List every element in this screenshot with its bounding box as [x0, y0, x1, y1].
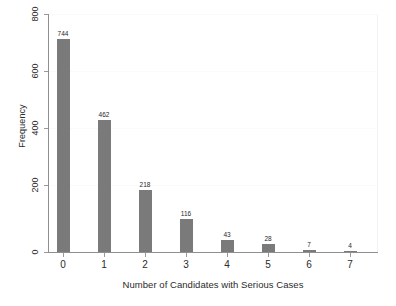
bar-value-7: 4	[330, 242, 370, 249]
bar-value-2: 218	[125, 181, 165, 188]
gridline-800	[49, 14, 378, 15]
y-tick-text-0: 0	[30, 249, 40, 254]
x-tick-mark-7	[350, 253, 351, 257]
y-tick-label-600: 600	[24, 65, 46, 77]
x-tick-label-2: 2	[133, 259, 157, 270]
x-tick-mark-0	[63, 253, 64, 257]
x-axis-title: Number of Candidates with Serious Cases	[48, 279, 378, 290]
x-tick-mark-4	[227, 253, 228, 257]
bar-value-0: 744	[43, 30, 83, 37]
y-tick-text-200: 200	[30, 177, 40, 192]
bar-value-5: 28	[248, 235, 288, 242]
x-tick-mark-5	[268, 253, 269, 257]
x-tick-mark-3	[186, 253, 187, 257]
x-tick-label-3: 3	[174, 259, 198, 270]
y-tick-text-600: 600	[30, 63, 40, 78]
y-tick-text-400: 400	[30, 120, 40, 135]
x-tick-mark-1	[104, 253, 105, 257]
x-tick-label-4: 4	[215, 259, 239, 270]
bar-6[interactable]	[303, 250, 316, 252]
x-axis-line	[48, 252, 378, 253]
y-tick-text-800: 800	[30, 6, 40, 21]
x-tick-label-1: 1	[92, 259, 116, 270]
gridline-600	[49, 71, 378, 72]
bar-4[interactable]	[221, 240, 234, 252]
x-tick-label-7: 7	[338, 259, 362, 270]
x-tick-mark-6	[309, 253, 310, 257]
y-axis-line	[48, 14, 49, 253]
bar-0[interactable]	[57, 39, 70, 252]
bar-7[interactable]	[344, 251, 357, 252]
bar-value-6: 7	[289, 241, 329, 248]
bar-3[interactable]	[180, 219, 193, 252]
bar-2[interactable]	[139, 190, 152, 252]
x-tick-label-6: 6	[297, 259, 321, 270]
bar-value-3: 116	[166, 210, 206, 217]
bar-1[interactable]	[98, 120, 111, 252]
y-tick-label-200: 200	[24, 179, 46, 191]
x-tick-mark-2	[145, 253, 146, 257]
bar-5[interactable]	[262, 244, 275, 252]
y-tick-label-400: 400	[24, 122, 46, 134]
x-tick-label-0: 0	[51, 259, 75, 270]
bar-value-4: 43	[207, 231, 247, 238]
y-tick-label-800: 800	[24, 8, 46, 20]
bar-chart-figure: Frequency 800 600 400 200 0 744 462 218 …	[0, 0, 396, 306]
y-tick-label-0: 0	[24, 246, 46, 258]
x-tick-label-5: 5	[256, 259, 280, 270]
bar-value-1: 462	[84, 111, 124, 118]
